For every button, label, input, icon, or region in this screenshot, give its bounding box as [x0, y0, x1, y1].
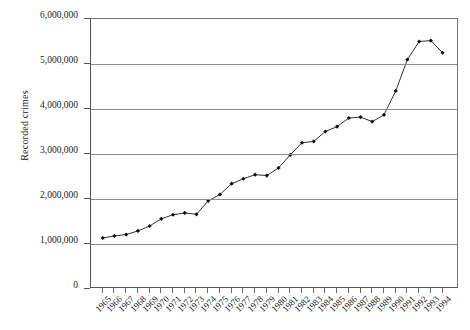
x-tick-mark — [160, 288, 161, 293]
x-tick-mark — [430, 288, 431, 293]
x-tick-mark — [418, 288, 419, 293]
x-tick-mark — [254, 288, 255, 293]
x-tick-mark — [289, 288, 290, 293]
x-tick-mark — [137, 288, 138, 293]
data-point-marker — [183, 211, 187, 215]
y-axis-title: Recorded crimes — [19, 66, 30, 186]
x-tick-mark — [301, 288, 302, 293]
data-point-marker — [358, 115, 362, 119]
gridline — [91, 109, 457, 110]
gridline — [91, 244, 457, 245]
data-point-marker — [112, 234, 116, 238]
y-tick-mark — [84, 18, 90, 19]
data-point-marker — [394, 89, 398, 93]
y-tick-mark — [84, 288, 90, 289]
y-tick-label: 0 — [73, 280, 78, 290]
x-tick-mark — [219, 288, 220, 293]
x-tick-mark — [395, 288, 396, 293]
x-tick-mark — [406, 288, 407, 293]
x-tick-mark — [313, 288, 314, 293]
x-tick-mark — [371, 288, 372, 293]
y-tick: 3,000,000 — [0, 153, 90, 154]
x-tick-mark — [324, 288, 325, 293]
series-line — [103, 41, 443, 238]
x-tick-mark — [242, 288, 243, 293]
y-tick: 6,000,000 — [0, 18, 90, 19]
y-tick: 4,000,000 — [0, 108, 90, 109]
x-tick-mark — [149, 288, 150, 293]
x-tick-mark — [113, 288, 114, 293]
x-tick-mark — [102, 288, 103, 293]
x-tick-mark — [125, 288, 126, 293]
x-tick-mark — [266, 288, 267, 293]
data-point-marker — [382, 113, 386, 117]
y-tick-label: 1,000,000 — [40, 235, 78, 245]
x-tick-mark — [442, 288, 443, 293]
gridline — [91, 154, 457, 155]
x-tick-mark — [336, 288, 337, 293]
x-tick-mark — [360, 288, 361, 293]
x-tick-mark — [231, 288, 232, 293]
y-tick-mark — [84, 63, 90, 64]
y-tick: 0 — [0, 288, 90, 289]
x-tick-mark — [195, 288, 196, 293]
data-point-marker — [124, 232, 128, 236]
y-tick-label: 2,000,000 — [40, 190, 78, 200]
gridline — [91, 199, 457, 200]
data-point-marker — [101, 236, 105, 240]
y-tick: 1,000,000 — [0, 243, 90, 244]
y-tick: 2,000,000 — [0, 198, 90, 199]
x-tick-mark — [278, 288, 279, 293]
plot-area — [90, 18, 458, 288]
y-tick-mark — [84, 108, 90, 109]
data-point-marker — [241, 177, 245, 181]
y-tick: 5,000,000 — [0, 63, 90, 64]
y-tick-mark — [84, 153, 90, 154]
y-tick-label: 5,000,000 — [40, 55, 78, 65]
data-point-marker — [253, 173, 257, 177]
x-tick-mark — [383, 288, 384, 293]
y-tick-label: 4,000,000 — [40, 100, 78, 110]
y-tick-mark — [84, 198, 90, 199]
x-tick-mark — [184, 288, 185, 293]
x-tick-mark — [207, 288, 208, 293]
gridline — [91, 64, 457, 65]
data-point-marker — [136, 229, 140, 233]
x-tick-mark — [348, 288, 349, 293]
data-point-marker — [370, 120, 374, 124]
y-tick-label: 6,000,000 — [40, 10, 78, 20]
line-chart: Recorded crimes 6,000,0005,000,0004,000,… — [0, 0, 470, 330]
y-tick-mark — [84, 243, 90, 244]
y-tick-label: 3,000,000 — [40, 145, 78, 155]
x-tick-mark — [172, 288, 173, 293]
data-point-marker — [171, 213, 175, 217]
